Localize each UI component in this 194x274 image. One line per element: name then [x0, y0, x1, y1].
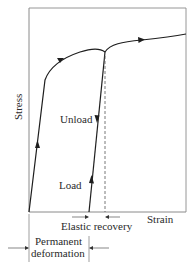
x-axis-label: Strain	[147, 213, 174, 225]
arrow-left-icon	[105, 215, 109, 219]
elastic-recovery-label: Elastic recovery	[61, 220, 133, 232]
arrow-left-icon	[89, 246, 93, 250]
unload-line	[89, 52, 105, 212]
arrow-right-plastic-icon	[138, 37, 145, 43]
stress-strain-diagram: Stress Unload Load Strain Elastic recove…	[0, 0, 194, 274]
y-axis-label: Stress	[12, 94, 24, 120]
arrow-right-icon	[85, 215, 89, 219]
permanent-label-line1: Permanent	[35, 235, 82, 247]
arrow-right-icon	[25, 246, 29, 250]
unload-label: Unload	[60, 113, 93, 125]
arrow-up-initial-load-icon	[35, 140, 40, 148]
reload-plastic-curve	[105, 34, 186, 52]
arrow-up-load-icon	[89, 175, 94, 184]
elastic-recovery-dimension	[72, 215, 120, 219]
permanent-label-line2: deformation	[31, 247, 85, 259]
load-label: Load	[59, 179, 82, 191]
plot-frame	[29, 8, 186, 212]
